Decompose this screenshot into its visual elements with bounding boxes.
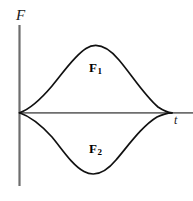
curve-f2-label-base: F (89, 141, 97, 156)
curve-f1-label: F1 (89, 61, 102, 74)
curve-f1 (20, 45, 173, 112)
figure-canvas (0, 0, 193, 201)
curve-f2-label-subscript: 2 (97, 147, 102, 157)
curve-f2-label: F2 (89, 142, 102, 155)
curve-f1-label-subscript: 1 (97, 66, 102, 76)
force-time-figure: F t F1 F2 (0, 0, 193, 201)
time-axis-label: t (174, 114, 177, 126)
curve-f1-label-base: F (89, 60, 97, 75)
force-axis-label: F (16, 8, 25, 23)
